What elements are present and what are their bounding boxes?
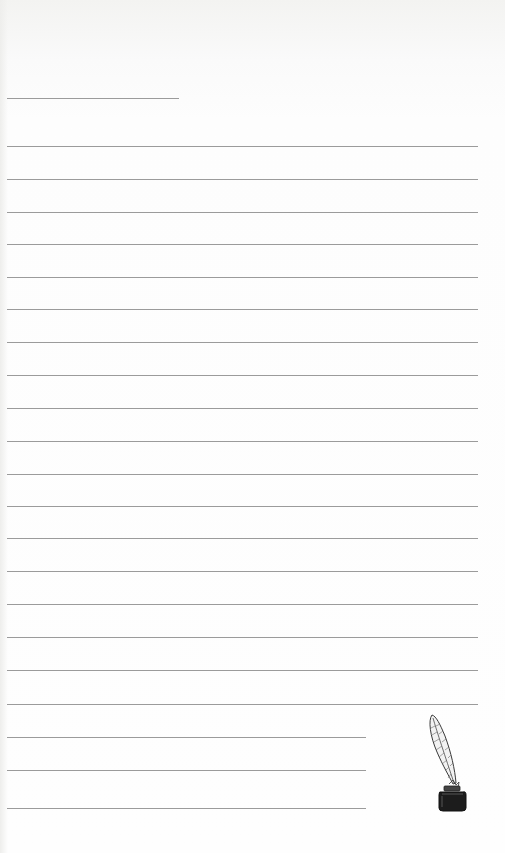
ruled-line [7,571,478,572]
quill-inkwell-icon [425,712,475,814]
ruled-line [7,604,478,605]
ruled-line [7,375,478,376]
ruled-line [7,309,478,310]
ruled-line [7,538,478,539]
ruled-line [7,342,478,343]
ruled-line [7,474,478,475]
ruled-line [7,670,478,671]
ruled-line [7,277,478,278]
ruled-line [7,704,478,705]
short-ruled-line [7,737,366,738]
ruled-line [7,212,478,213]
ruled-line [7,441,478,442]
ruled-line [7,408,478,409]
short-ruled-line [7,808,366,809]
ruled-line [7,637,478,638]
ruled-line [7,506,478,507]
header-rule [7,98,179,99]
ruled-line [7,244,478,245]
paper-edge-shade [0,0,8,853]
ruled-line [7,146,478,147]
ruled-line [7,179,478,180]
short-ruled-line [7,770,366,771]
